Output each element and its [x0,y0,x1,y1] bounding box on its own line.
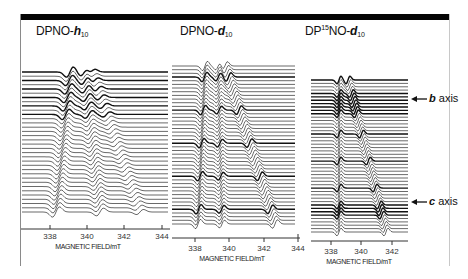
panel-dp15no-d10-spectra [311,76,408,236]
tick-label: 338 [188,244,201,253]
x-axis-label: MAGNETIC FIELD/mT [55,243,121,250]
tick-label: 344 [155,232,168,241]
b-axis-annotation: b axis [429,92,458,104]
tick-label: 342 [385,247,398,256]
tick-label: 340 [80,232,93,241]
tick-label: 342 [257,244,270,253]
panel-dpno-d10-spectra [172,62,295,229]
tick-label: 338 [43,232,56,241]
spectra-plot-area [0,0,468,279]
tick-label: 338 [324,247,337,256]
tick-label: 342 [117,232,130,241]
x-axis-label: MAGNETIC FIELD/mT [199,255,265,262]
annotation-text: axis [436,92,459,104]
c-axis-annotation: c axis [429,195,458,207]
x-axis-label: MAGNETIC FIELD/mT [326,258,392,265]
panel-dpno-h10-spectra [22,67,168,217]
tick-label: 340 [354,247,367,256]
tick-label: 340 [222,244,235,253]
annotation-italic: b [429,92,436,104]
tick-label: 344 [291,244,304,253]
annotation-text: axis [435,195,458,207]
